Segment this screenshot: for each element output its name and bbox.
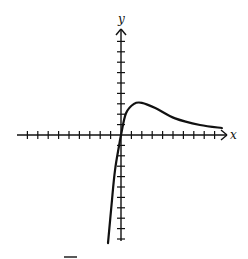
function-curve	[108, 102, 222, 243]
function-graph: x y	[0, 0, 248, 259]
y-axis-label: y	[117, 12, 125, 26]
x-axis-label: x	[230, 128, 237, 142]
